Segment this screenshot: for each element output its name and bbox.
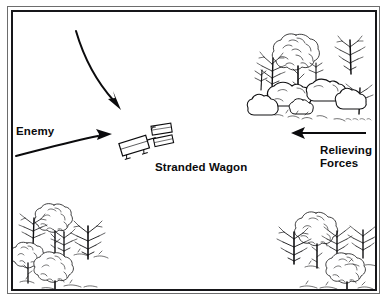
stranded-wagon-symbol [117, 120, 177, 159]
terrain-cluster-top-right [247, 34, 373, 121]
terrain-cluster-bottom-left [11, 204, 108, 290]
relieving-forces-label: Relieving Forces [320, 144, 372, 170]
stranded-wagon-label: Stranded Wagon [155, 161, 247, 174]
leafy-tree-icon [326, 253, 366, 291]
terrain-cluster-bottom-right [277, 212, 378, 291]
relieving-forces-label-line2: Forces [320, 157, 372, 170]
leafy-tree-icon [35, 204, 73, 253]
relieving-forces-label-line1: Relieving [320, 144, 372, 157]
leafy-tree-icon [34, 252, 74, 290]
enemy-approach-arrow-north [76, 31, 121, 110]
tactical-sketch-figure: Enemy Stranded Wagon Relieving Forces [0, 0, 388, 307]
artist-signature [346, 119, 371, 120]
enemy-label: Enemy [16, 125, 54, 138]
relieving-forces-arrow [291, 127, 366, 139]
bare-tree-icon [348, 226, 378, 258]
bare-tree-icon [335, 36, 365, 74]
